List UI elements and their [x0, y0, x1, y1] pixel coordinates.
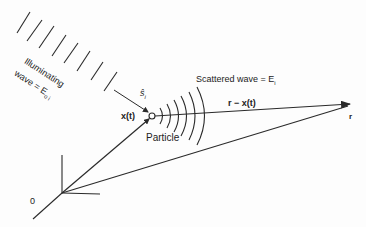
relative-vector-label: r − x(t) [228, 98, 256, 108]
unit-vector-subscript: i [145, 94, 146, 100]
scattering-diagram: Illuminating wave = Eo i ŝi x(t) Particl… [0, 0, 366, 227]
observation-point-label: r [349, 112, 352, 121]
particle-label: Particle [146, 132, 179, 143]
position-label: x(t) [121, 111, 135, 121]
position-vector-arrow [62, 119, 149, 193]
particle-circle [149, 113, 155, 119]
diagram-lines [0, 0, 366, 227]
scattered-label: Scattered wave = Ei [196, 74, 276, 86]
observation-vector [62, 106, 348, 193]
coordinate-axes [33, 155, 100, 219]
origin-label: 0 [30, 196, 35, 206]
scattered-text: Scattered wave = E [196, 74, 274, 84]
unit-vector-label: ŝi [140, 88, 146, 100]
scattered-subscript: i [274, 80, 275, 86]
